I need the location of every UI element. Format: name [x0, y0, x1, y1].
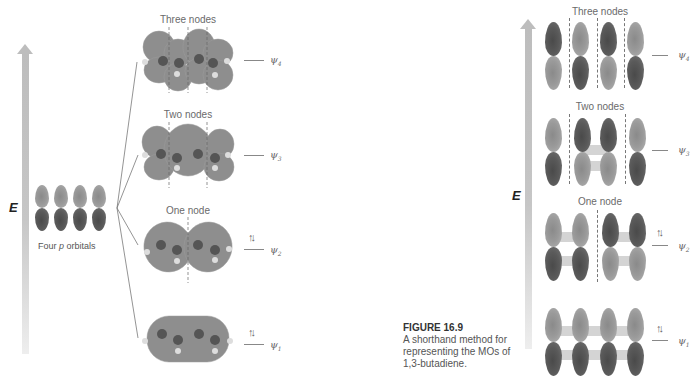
- lobe: [600, 308, 617, 342]
- lobe: [545, 308, 562, 342]
- mo-3d-psi2: [135, 215, 245, 285]
- left-nodes-label-psi3: Two nodes: [158, 109, 218, 120]
- energy-level-psi2: [244, 249, 264, 250]
- lobe: [572, 213, 589, 247]
- electron-pair-psi1: ↑↓: [248, 326, 253, 338]
- right-nodes-label-psi4: Three nodes: [565, 6, 635, 17]
- right-psi1-label: ψ1: [678, 335, 690, 348]
- right-electron-pair-psi2: ↑↓: [656, 226, 661, 238]
- lobe: [545, 213, 562, 247]
- right-electron-pair-psi1: ↑↓: [656, 322, 661, 334]
- mo-3d-psi1: [135, 310, 245, 370]
- lobe: [545, 118, 562, 152]
- left-nodes-label-psi2: One node: [158, 205, 218, 216]
- left-nodes-label-psi4: Three nodes: [158, 14, 218, 25]
- arrow-shaft: [525, 29, 532, 349]
- lobe: [627, 22, 644, 56]
- figure-caption: A shorthand method for representing the …: [403, 334, 513, 370]
- right-energy-level-psi1: [652, 340, 668, 341]
- energy-level-psi4: [244, 60, 264, 61]
- psi3-label: ψ3: [270, 149, 282, 162]
- right-energy-label: E: [512, 188, 521, 203]
- bond: [556, 350, 636, 360]
- psi1-label: ψ1: [270, 339, 282, 352]
- node-plane: [569, 114, 570, 184]
- lobe: [627, 308, 644, 342]
- psi4-label: ψ4: [270, 54, 282, 67]
- lobe: [572, 308, 589, 342]
- mo-3d-psi4: [135, 25, 245, 95]
- node-plane: [569, 18, 570, 88]
- lobe: [600, 22, 617, 56]
- mo-3d-psi3: [135, 120, 245, 190]
- lobe: [602, 213, 619, 247]
- right-nodes-label-psi2: One node: [565, 196, 635, 207]
- figure-number: FIGURE 16.9: [403, 322, 463, 333]
- bond: [556, 326, 636, 336]
- right-nodes-label-psi3: Two nodes: [565, 101, 635, 112]
- energy-level-psi1: [244, 344, 264, 345]
- right-psi2-label: ψ2: [678, 240, 690, 253]
- node-plane: [597, 210, 598, 282]
- right-energy-level-psi2: [652, 245, 668, 246]
- right-energy-level-psi3: [652, 150, 668, 151]
- lobe: [574, 118, 591, 152]
- lobe: [572, 22, 589, 56]
- node-plane: [624, 18, 625, 88]
- electron-pair-psi2: ↑↓: [248, 231, 253, 243]
- right-psi4-label: ψ4: [678, 49, 690, 62]
- right-psi3-label: ψ3: [678, 144, 690, 157]
- arrow-head-icon: [520, 19, 536, 29]
- lobe: [629, 213, 646, 247]
- lobe: [629, 118, 646, 152]
- psi2-label: ψ2: [270, 244, 282, 257]
- right-energy-level-psi4: [652, 55, 668, 56]
- node-plane: [625, 114, 626, 184]
- lobe: [545, 22, 562, 56]
- node-plane: [597, 18, 598, 88]
- lobe: [600, 118, 617, 152]
- energy-level-psi3: [244, 155, 264, 156]
